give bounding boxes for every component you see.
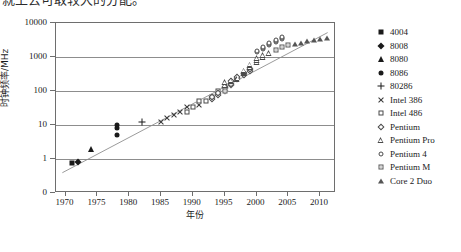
legend-label: 80286 [390, 81, 413, 91]
legend-marker-small-open-square-icon [374, 160, 388, 174]
legend-item-pentium[interactable]: Pentium [374, 120, 460, 134]
legend-label: Pentium M [390, 162, 430, 172]
trend-line [56, 23, 334, 191]
x-axis-tick-mark [65, 192, 66, 196]
gridline [56, 57, 334, 58]
x-axis-tick-mark [287, 192, 288, 196]
legend-item-core-2-duo[interactable]: Core 2 Duo [374, 174, 460, 188]
x-axis-tick-mark [319, 192, 320, 196]
x-axis-tick-mark [160, 192, 161, 196]
x-axis-tick-label: 2000 [247, 198, 265, 207]
legend-label: Intel 386 [390, 95, 422, 105]
x-axis-tick-label: 2010 [310, 198, 328, 207]
x-axis-tick-mark [128, 192, 129, 196]
x-axis-tick-label: 1975 [87, 198, 105, 207]
x-axis-tick-mark [192, 192, 193, 196]
y-axis-tick-label: 1 [43, 154, 48, 163]
x-axis-tick-label: 1970 [56, 198, 74, 207]
chart-legend: 400480088080808680286Intel 386Intel 486P… [374, 25, 460, 187]
legend-item-4004[interactable]: 4004 [374, 25, 460, 39]
legend-marker-open-square-icon [374, 106, 388, 120]
legend-label: 8080 [390, 54, 408, 64]
legend-label: Core 2 Duo [390, 176, 432, 186]
legend-item-pentium-m[interactable]: Pentium M [374, 160, 460, 174]
legend-marker-plus-icon [374, 79, 388, 93]
page-top-text-clip: 就上去可取较大的分配。 [0, 0, 250, 11]
x-axis-tick-mark [224, 192, 225, 196]
y-axis: 1000010001001010 [0, 22, 55, 192]
y-axis-tick-label: 0 [43, 188, 48, 197]
x-axis-tick-label: 1980 [119, 198, 137, 207]
legend-label: Intel 486 [390, 108, 422, 118]
legend-label: Pentium 4 [390, 149, 427, 159]
legend-item-pentium-4[interactable]: Pentium 4 [374, 147, 460, 161]
y-axis-tick-label: 1000 [29, 52, 47, 61]
y-axis-tick-label: 10000 [25, 18, 48, 27]
chart-figure: 时钟频率/MHz 1000010001001010 19701975198019… [0, 11, 461, 252]
legend-marker-filled-square-icon [374, 25, 388, 39]
legend-item-8008[interactable]: 8008 [374, 39, 460, 53]
legend-marker-filled-triangle-icon [374, 52, 388, 66]
legend-item-8080[interactable]: 8080 [374, 52, 460, 66]
legend-marker-open-triangle-icon [374, 133, 388, 147]
legend-label: Pentium Pro [390, 135, 435, 145]
legend-marker-open-circle-icon [374, 147, 388, 161]
legend-label: Pentium [390, 122, 420, 132]
legend-marker-small-filled-triangle-icon [374, 174, 388, 188]
x-axis: 197019751980198519901995200020052010 [55, 192, 335, 208]
x-axis-tick-mark [256, 192, 257, 196]
legend-item-pentium-pro[interactable]: Pentium Pro [374, 133, 460, 147]
x-axis-tick-label: 1995 [215, 198, 233, 207]
legend-item-80286[interactable]: 80286 [374, 79, 460, 93]
legend-marker-filled-diamond-icon [374, 39, 388, 53]
legend-marker-filled-circle-icon [374, 66, 388, 80]
legend-marker-cross-icon [374, 93, 388, 107]
legend-marker-open-diamond-icon [374, 120, 388, 134]
x-axis-tick-label: 1990 [183, 198, 201, 207]
x-axis-tick-label: 1985 [151, 198, 169, 207]
x-axis-tick-label: 2005 [278, 198, 296, 207]
gridline [56, 91, 334, 92]
gridline [56, 159, 334, 160]
gridline [56, 125, 334, 126]
x-axis-tick-mark [96, 192, 97, 196]
legend-label: 8008 [390, 41, 408, 51]
legend-label: 8086 [390, 68, 408, 78]
legend-item-intel-486[interactable]: Intel 486 [374, 106, 460, 120]
legend-item-8086[interactable]: 8086 [374, 66, 460, 80]
page-top-text: 就上去可取较大的分配。 [2, 0, 145, 7]
x-axis-title: 年份 [55, 210, 335, 220]
y-axis-tick-label: 10 [38, 120, 47, 129]
legend-item-intel-386[interactable]: Intel 386 [374, 93, 460, 107]
y-axis-tick-label: 100 [34, 86, 48, 95]
plot-area [55, 22, 335, 192]
legend-label: 4004 [390, 27, 408, 37]
